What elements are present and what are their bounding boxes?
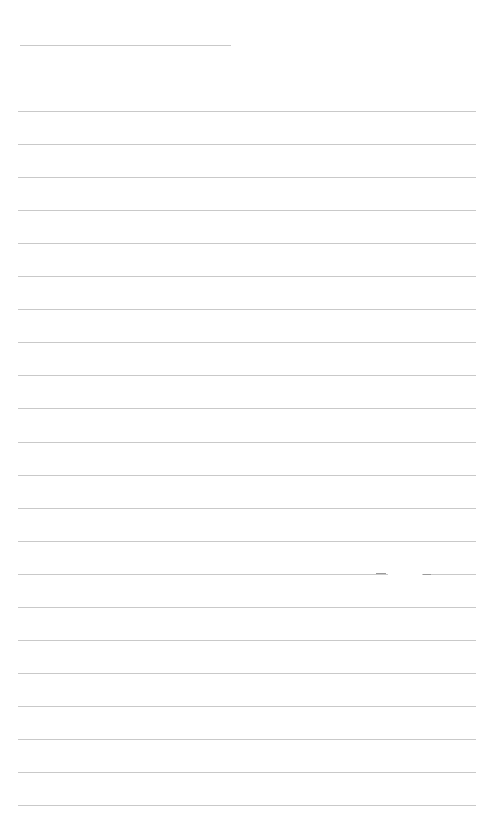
ruled-line — [18, 342, 476, 343]
ruled-line — [18, 309, 476, 310]
ruled-line — [18, 541, 476, 542]
header-line — [20, 45, 231, 46]
ruled-line — [18, 276, 476, 277]
ruled-line — [18, 508, 476, 509]
pencil-mark — [423, 574, 431, 575]
line-gap — [388, 572, 422, 575]
ruled-line — [18, 739, 476, 740]
ruled-line — [18, 408, 476, 409]
ruled-line — [18, 111, 476, 112]
ruled-line — [18, 177, 476, 178]
ruled-line — [18, 375, 476, 376]
pencil-mark — [376, 573, 386, 574]
ruled-line — [18, 772, 476, 773]
ruled-line — [18, 706, 476, 707]
ruled-line — [18, 243, 476, 244]
ruled-line — [18, 805, 476, 806]
ruled-line — [18, 640, 476, 641]
ruled-line — [18, 442, 476, 443]
ruled-line — [18, 144, 476, 145]
ruled-line — [18, 673, 476, 674]
ruled-line — [18, 607, 476, 608]
ruled-line — [18, 475, 476, 476]
ruled-line — [18, 210, 476, 211]
